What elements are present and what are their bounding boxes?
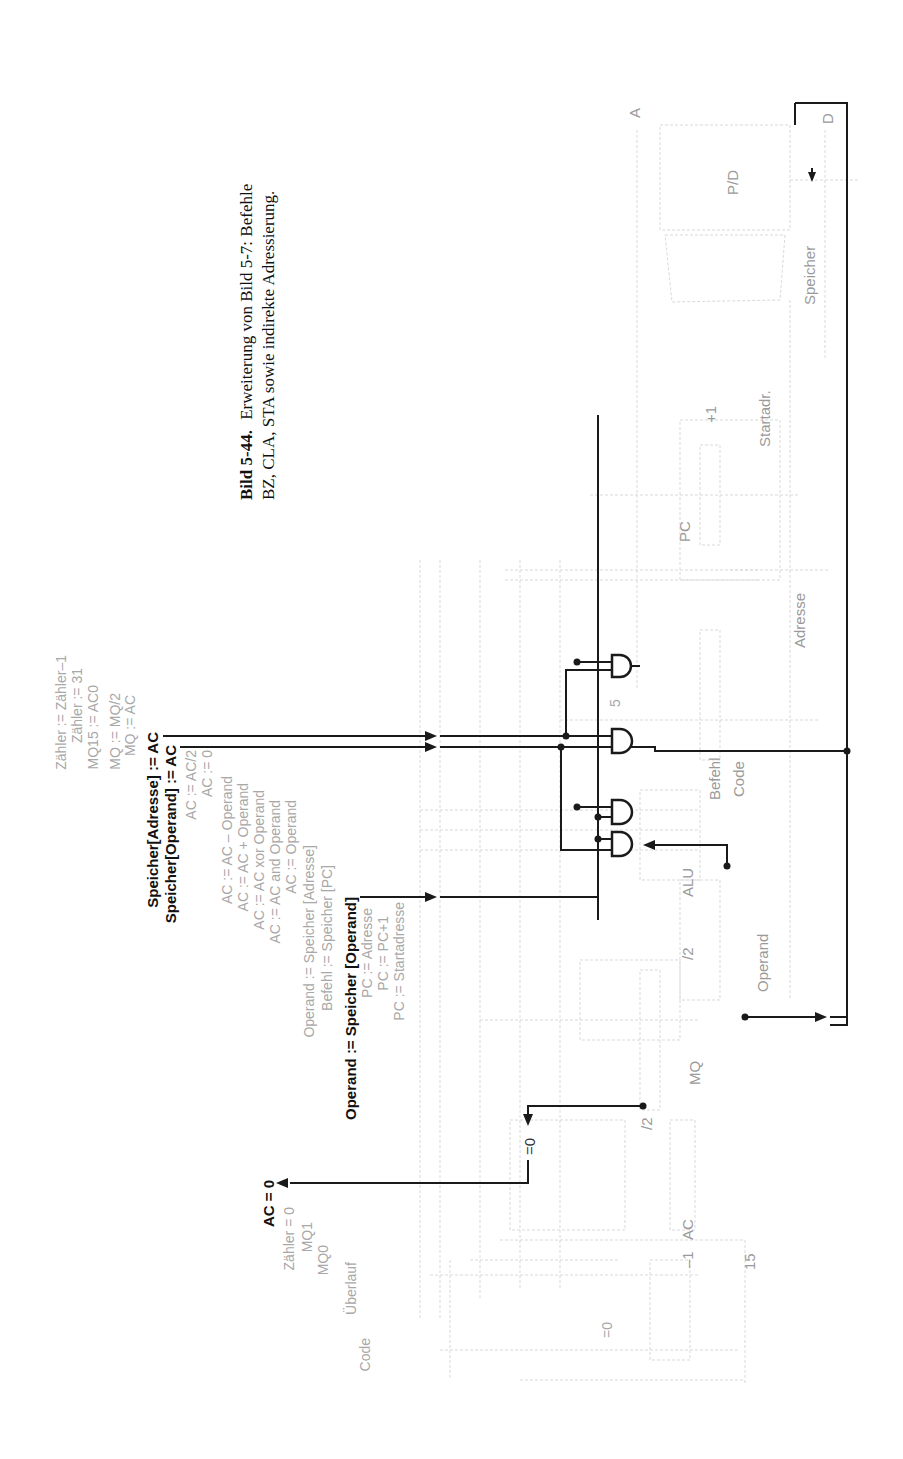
- background-datapath: [420, 125, 860, 1385]
- ac-zero-wire-top: [528, 1106, 643, 1115]
- five-label: 5: [607, 699, 623, 707]
- arrow-speicher-operand: [425, 742, 437, 752]
- status-ac-zero: AC = 0: [260, 1180, 277, 1227]
- port-a-label: A: [626, 108, 643, 118]
- status-zaehler-zero: Zähler = 0: [281, 1207, 297, 1271]
- mq-area: [580, 960, 680, 1040]
- junction-dot: [640, 1103, 647, 1110]
- signal-operand-speicher-adresse: Operand := Speicher [Adresse]: [301, 845, 317, 1038]
- status-mq0: MQ0: [315, 1245, 331, 1276]
- div2-ac-label: /2: [638, 1117, 655, 1130]
- arrow-operand-indirect: [425, 892, 437, 902]
- figure-caption: Bild 5-44. Erweiterung von Bild 5-7: Bef…: [237, 184, 278, 500]
- signal-mq-div2: MQ := MQ/2: [107, 693, 123, 770]
- code-label: Code: [730, 761, 747, 797]
- signal-ac-sub: AC := AC – Operand: [219, 776, 235, 904]
- branch-to-gate4: [561, 747, 612, 850]
- signal-zaehler-dec: Zähler := Zähler–1: [53, 655, 69, 770]
- arrow-speicher-adresse: [425, 731, 437, 741]
- operand-arrow: [815, 1012, 827, 1022]
- ac-zero-out-arrow: [276, 1178, 288, 1188]
- signal-ac-add: AC := AC + Operand: [235, 783, 251, 911]
- signal-ac-operand: AC := Operand: [283, 800, 299, 894]
- startadr-label: Startadr.: [756, 390, 773, 447]
- junction-dot: [724, 863, 731, 870]
- and-gate-3-icon: [612, 800, 632, 824]
- and-gate-1-icon: [612, 655, 631, 677]
- eq0-comparator-label: =0: [521, 1138, 538, 1155]
- signal-mq-ac: MQ := AC: [122, 695, 138, 756]
- branch-to-gate1: [566, 670, 612, 736]
- pc-label: PC: [676, 521, 693, 542]
- signal-speicher-operand-ac: Speicher[Operand] := AC: [162, 745, 179, 923]
- signal-ac-zero: AC := 0: [199, 750, 215, 797]
- operand-register: [680, 880, 720, 1000]
- and-gate-4-icon: [612, 832, 632, 856]
- befehl-register: [700, 630, 720, 760]
- status-mq1: MQ1: [299, 1222, 315, 1253]
- alu-block: [640, 790, 700, 880]
- alu-feedback-arrow: [643, 840, 655, 850]
- caption-line2: BZ, CLA, STA sowie indirekte Adressierun…: [259, 191, 278, 500]
- befehl-label: Befehl: [706, 757, 723, 800]
- signal-speicher-adresse-ac: Speicher[Adresse] := AC: [144, 732, 161, 908]
- signal-operand-speicher-operand: Operand := Speicher [Operand]: [342, 897, 359, 1120]
- signal-befehl-speicher-pc: Befehl := Speicher [PC]: [319, 865, 335, 1011]
- plus-one-label: +1: [702, 406, 719, 423]
- ac-zero-wire-bottom: [290, 1160, 528, 1183]
- control-signal-list: Zähler := Zähler–1 Zähler := 31 MQ15 := …: [53, 655, 407, 1120]
- speicher-block: [665, 235, 785, 302]
- speicher-label: Speicher: [801, 246, 818, 305]
- pd-label: P/D: [724, 170, 741, 195]
- circuit-diagram: Bild 5-44. Erweiterung von Bild 5-7: Bef…: [0, 0, 903, 1459]
- signal-mq15-ac0: MQ15 := AC0: [85, 685, 101, 770]
- signal-pc-startadresse: PC := Startadresse: [391, 902, 407, 1021]
- alu-feedback-wire: [654, 845, 727, 866]
- gate2-output-wire: [627, 747, 847, 751]
- minus-one-label: –1: [679, 1251, 696, 1268]
- signal-ac-div2: AC := AC/2: [183, 750, 199, 820]
- signal-ac-xor: AC := AC xor Operand: [251, 790, 267, 930]
- junction-dot: [844, 748, 851, 755]
- port-d-label: D: [819, 113, 836, 124]
- alu-label: ALU: [679, 868, 696, 897]
- svg-text:Bild 5-44. Erweiterung v: Bild 5-44. Erweiterung von Bild 5-7: Bef…: [237, 184, 256, 500]
- figure-number: Bild 5-44.: [237, 430, 256, 500]
- status-ueberlauf: Überlauf: [342, 1262, 359, 1315]
- status-signal-list: AC = 0 Zähler = 0 MQ1 MQ0 Überlauf Code: [260, 1180, 373, 1371]
- div2-mq-label: /2: [679, 947, 696, 960]
- mq-label: MQ: [686, 1061, 703, 1085]
- signal-ac-and: AC := AC and Operand: [267, 800, 283, 944]
- block-labels: A D P/D Speicher Startadr. +1 PC Adresse…: [599, 108, 836, 1338]
- signal-pc-inc: PC := PC+1: [375, 916, 391, 991]
- adresse-label: Adresse: [791, 593, 808, 648]
- and-gates: [612, 655, 640, 856]
- signal-zaehler-31: Zähler := 31: [69, 668, 85, 743]
- fifteen-label: 15: [741, 1253, 758, 1270]
- operand-label: Operand: [754, 934, 771, 992]
- ac-label: AC: [679, 1219, 696, 1240]
- caption-line1: Erweiterung von Bild 5-7: Befehle: [237, 184, 256, 420]
- junction-dot: [742, 1014, 749, 1021]
- ac-register: [670, 1120, 695, 1230]
- eq0-gray-label: =0: [599, 1322, 615, 1338]
- memory-data-wire: [795, 103, 847, 1025]
- and-gate-2-icon: [612, 729, 632, 753]
- signal-pc-adresse: PC := Adresse: [359, 908, 375, 998]
- status-code: Code: [357, 1338, 373, 1372]
